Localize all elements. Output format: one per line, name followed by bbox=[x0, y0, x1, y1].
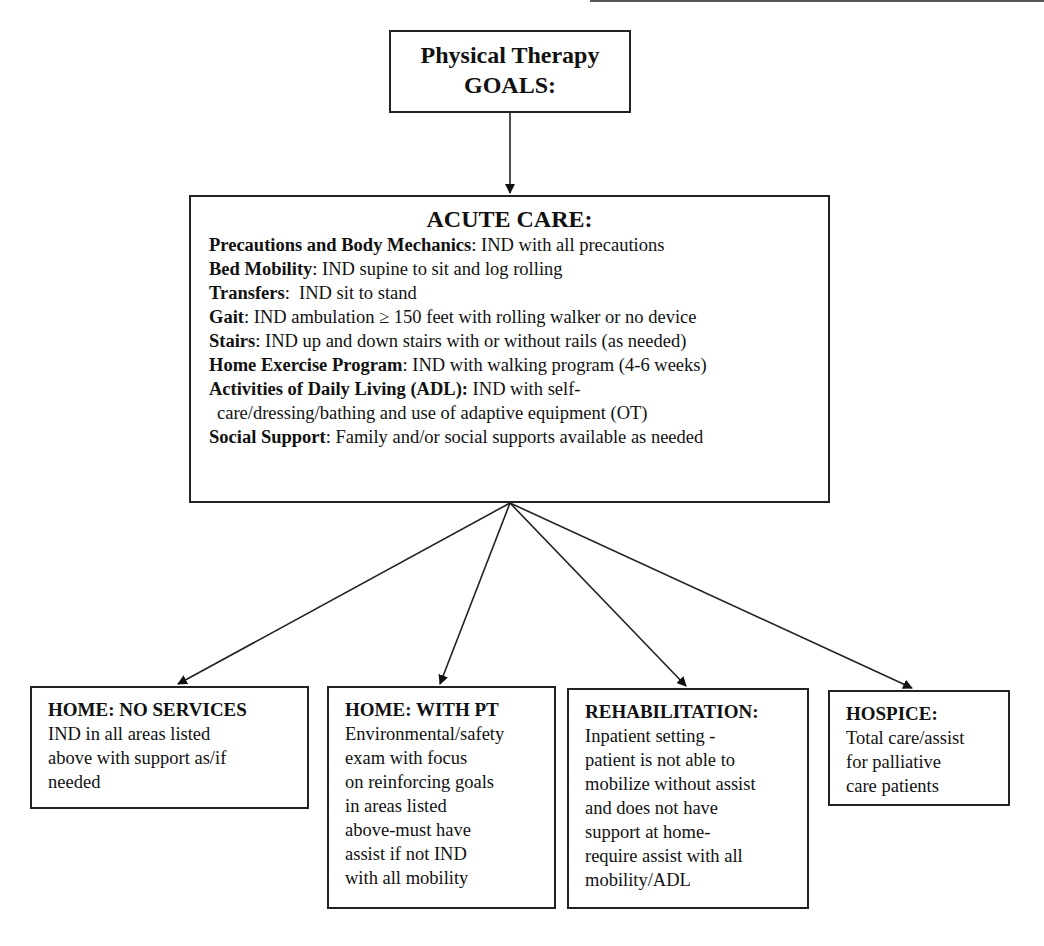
goal-gait: Gait: IND ambulation ≥ 150 feet with rol… bbox=[209, 305, 828, 329]
arrow-to-rehabilitation bbox=[510, 503, 686, 686]
goal-adl: Activities of Daily Living (ADL): IND wi… bbox=[209, 377, 828, 401]
title-line-1: Physical Therapy bbox=[391, 40, 629, 70]
outcome-rehabilitation: REHABILITATION: Inpatient setting - pati… bbox=[567, 688, 809, 909]
goal-stairs: Stairs: IND up and down stairs with or w… bbox=[209, 329, 828, 353]
goal-home-exercise: Home Exercise Program: IND with walking … bbox=[209, 353, 828, 377]
outcome-heading: REHABILITATION: bbox=[585, 700, 807, 724]
title-box: Physical Therapy GOALS: bbox=[389, 30, 631, 113]
goal-bed-mobility: Bed Mobility: IND supine to sit and log … bbox=[209, 257, 828, 281]
outcome-heading: HOME: NO SERVICES bbox=[48, 698, 307, 722]
outcome-home-with-pt: HOME: WITH PT Environmental/safety exam … bbox=[327, 686, 556, 909]
arrow-to-home-no-services bbox=[178, 503, 510, 684]
outcome-body: Total care/assist for palliative care pa… bbox=[846, 726, 1008, 798]
goal-precautions: Precautions and Body Mechanics: IND with… bbox=[209, 233, 828, 257]
acute-care-box: ACUTE CARE: Precautions and Body Mechani… bbox=[189, 195, 830, 503]
top-rule bbox=[590, 0, 1044, 2]
acute-care-heading: ACUTE CARE: bbox=[191, 205, 828, 233]
outcome-home-no-services: HOME: NO SERVICES IND in all areas liste… bbox=[30, 686, 309, 809]
goal-adl-continued: care/dressing/bathing and use of adaptiv… bbox=[209, 401, 828, 425]
outcome-body: IND in all areas listed above with suppo… bbox=[48, 722, 307, 794]
title-line-2: GOALS: bbox=[391, 70, 629, 100]
outcome-heading: HOME: WITH PT bbox=[345, 698, 554, 722]
outcome-body: Environmental/safety exam with focus on … bbox=[345, 722, 554, 890]
goal-transfers: Transfers: IND sit to stand bbox=[209, 281, 828, 305]
outcome-hospice: HOSPICE: Total care/assist for palliativ… bbox=[828, 690, 1010, 806]
arrow-to-hospice bbox=[510, 503, 912, 688]
outcome-heading: HOSPICE: bbox=[846, 702, 1008, 726]
goal-social-support: Social Support: Family and/or social sup… bbox=[209, 425, 828, 449]
outcome-body: Inpatient setting - patient is not able … bbox=[585, 724, 807, 892]
arrow-to-home-with-pt bbox=[440, 503, 510, 684]
